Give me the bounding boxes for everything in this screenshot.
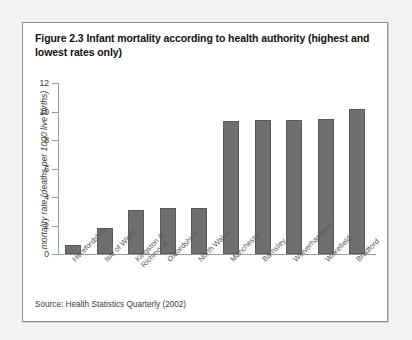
y-tick-label: 2 xyxy=(29,222,49,230)
y-tick-label: 4 xyxy=(29,193,49,201)
bar-chart: mortality rate (deaths per 1000 live bir… xyxy=(23,23,389,323)
figure-source: Source: Health Statistics Quarterly (200… xyxy=(35,300,186,309)
y-tick-label: 8 xyxy=(29,136,49,144)
figure-container: Figure 2.3 Infant mortality according to… xyxy=(22,22,388,322)
y-tick-label: 12 xyxy=(29,79,49,87)
y-tick-label: 6 xyxy=(29,165,49,173)
y-tick-mark xyxy=(52,254,59,255)
y-tick-label: 10 xyxy=(29,108,49,116)
y-tick-label: 0 xyxy=(29,250,49,258)
bar xyxy=(286,120,302,254)
page-root: Figure 2.3 Infant mortality according to… xyxy=(0,0,412,340)
bar xyxy=(349,109,365,254)
